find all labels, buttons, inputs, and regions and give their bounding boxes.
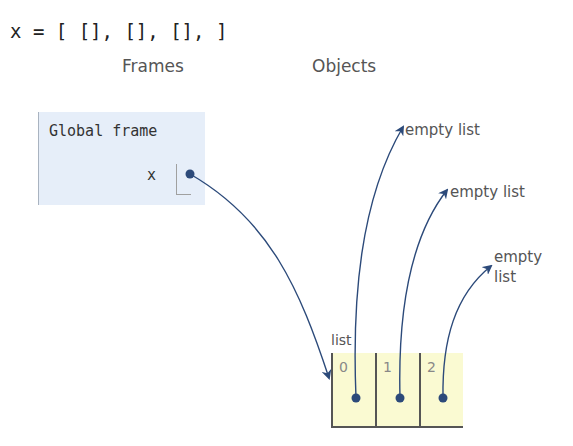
- pointer-arrow-x-to-list: [186, 170, 330, 379]
- pointer-arrows: [0, 0, 573, 446]
- pointer-arrow-cell0: [352, 127, 404, 403]
- pointer-arrow-cell2: [439, 266, 492, 403]
- pointer-arrow-cell1: [396, 190, 448, 403]
